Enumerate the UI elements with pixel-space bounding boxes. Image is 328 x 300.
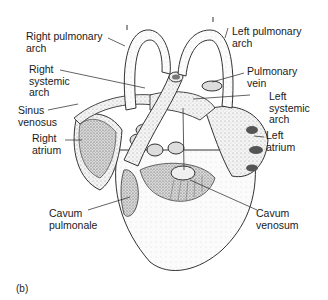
label-left-systemic-arch: Left systemic arch bbox=[269, 91, 310, 126]
label-pulmonary-vein: Pulmonary vein bbox=[247, 66, 297, 89]
label-cavum-pulmonale: Cavum pulmonale bbox=[49, 208, 97, 231]
label-right-atrium: Right atrium bbox=[32, 133, 61, 156]
label-cavum-venosum: Cavum venosum bbox=[256, 208, 299, 231]
label-left-atrium: Left atrium bbox=[266, 130, 295, 153]
label-sinus-venosus: Sinus venosus bbox=[18, 105, 57, 128]
label-right-pulmonary-arch: Right pulmonary arch bbox=[26, 31, 102, 54]
label-left-pulmonary-arch: Left pulmonary arch bbox=[232, 26, 301, 49]
label-right-systemic-arch: Right systemic arch bbox=[29, 64, 70, 99]
panel-label: (b) bbox=[16, 283, 28, 294]
